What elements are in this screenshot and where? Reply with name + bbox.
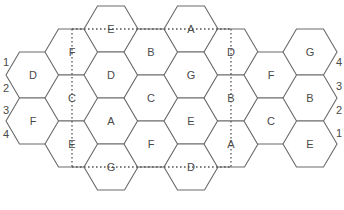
hex-cell-label: F: [30, 115, 37, 127]
right-edge-number: 1: [336, 127, 342, 139]
right-edge-number: 3: [336, 80, 342, 92]
hex-cells: [6, 6, 337, 190]
left-edge-number: 1: [3, 56, 9, 68]
hex-grid: DFFCEEDAGBCFAGEDDBAFCGBE 12344321: [0, 0, 344, 210]
hex-cell-label: G: [187, 69, 196, 81]
hex-cell-label: F: [148, 138, 155, 150]
right-edge-number: 4: [336, 56, 342, 68]
hex-map-diagram: DFFCEEDAGBCFAGEDDBAFCGBE 12344321: [0, 0, 344, 210]
hex-cell-label: E: [306, 138, 313, 150]
hex-cell-label: D: [227, 46, 235, 58]
hex-cell-label: E: [187, 115, 194, 127]
hex-cell-label: D: [29, 69, 37, 81]
hex-cell-label: B: [227, 92, 234, 104]
hex-cell-label: E: [68, 138, 75, 150]
left-edge-number: 3: [3, 104, 9, 116]
hex-cell-label: E: [107, 23, 114, 35]
hex-cell-label: B: [306, 92, 313, 104]
hex-cell-label: A: [227, 138, 235, 150]
hex-cell-label: G: [107, 161, 116, 173]
hex-cell-label: C: [68, 92, 76, 104]
left-edge-number: 2: [3, 82, 9, 94]
hex-cell-label: D: [187, 161, 195, 173]
hex-cell-label: A: [187, 23, 195, 35]
hex-cell-label: F: [69, 46, 76, 58]
hex-cell-label: F: [268, 69, 275, 81]
hex-cell-label: A: [107, 115, 115, 127]
hex-cell-label: D: [107, 69, 115, 81]
left-edge-number: 4: [3, 128, 9, 140]
hex-cell-label: B: [147, 46, 154, 58]
right-edge-number: 2: [336, 104, 342, 116]
hex-cell-label: C: [147, 92, 155, 104]
hex-cell-label: C: [267, 115, 275, 127]
hex-cell-label: G: [306, 46, 315, 58]
